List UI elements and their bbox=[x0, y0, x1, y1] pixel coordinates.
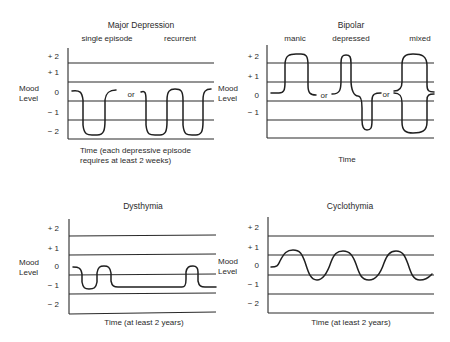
ytick-minus1: − 1 bbox=[248, 280, 260, 289]
ytick-minus1: − 1 bbox=[248, 108, 260, 117]
ylabel-level: Level bbox=[19, 268, 38, 277]
ytick-plus1: + 1 bbox=[48, 68, 60, 77]
curve-dysthymia bbox=[73, 266, 216, 289]
ytick-plus1: + 1 bbox=[248, 243, 260, 252]
ylabel-mood: Mood bbox=[218, 257, 238, 266]
x-axis bbox=[69, 312, 216, 314]
panel-title: Bipolar bbox=[338, 20, 365, 30]
curve-manic bbox=[271, 54, 316, 95]
ytick-minus1: − 1 bbox=[48, 281, 60, 290]
ytick-minus1: − 1 bbox=[48, 108, 60, 117]
subtitle-manic: manic bbox=[284, 34, 305, 43]
xlabel: Time (at least 2 years) bbox=[311, 318, 391, 327]
gridline-plus2 bbox=[69, 235, 216, 236]
ytick-minus2: − 2 bbox=[48, 300, 60, 309]
ytick-0: 0 bbox=[55, 88, 60, 97]
ytick-minus2: − 2 bbox=[248, 299, 260, 308]
subtitle-mixed: mixed bbox=[409, 34, 430, 43]
ylabel-level: Level bbox=[218, 94, 237, 103]
separator-or: or bbox=[127, 90, 134, 99]
panel-dysthymia: Dysthymia Mood Level + 2 + 1 0 − 1 − 2 T… bbox=[19, 201, 216, 327]
ytick-plus2: + 2 bbox=[48, 52, 60, 61]
ylabel-level: Level bbox=[218, 267, 237, 276]
subtitle-recurrent: recurrent bbox=[164, 34, 197, 43]
xlabel: Time (at least 2 years) bbox=[104, 318, 184, 327]
ytick-0: 0 bbox=[55, 262, 60, 271]
gridline-0 bbox=[69, 274, 216, 275]
ytick-plus1: + 1 bbox=[48, 244, 60, 253]
ytick-plus2: + 2 bbox=[248, 223, 260, 232]
ylabel-mood: Mood bbox=[218, 84, 238, 93]
subtitle-single-episode: single episode bbox=[81, 34, 133, 43]
xlabel: Time bbox=[338, 155, 356, 164]
curve-recurrent bbox=[141, 89, 211, 135]
gridline-plus1 bbox=[69, 254, 216, 255]
ytick-plus2: + 2 bbox=[48, 224, 60, 233]
ytick-0: 0 bbox=[255, 261, 260, 270]
xlabel-line1: Time (each depressive episode bbox=[80, 146, 191, 155]
subtitle-depressed: depressed bbox=[332, 34, 369, 43]
panel-bipolar: Bipolar manic depressed mixed Mood Level… bbox=[218, 20, 434, 164]
curve-mixed-upper bbox=[394, 54, 434, 92]
ytick-minus2: − 2 bbox=[48, 127, 60, 136]
separator-or-1: or bbox=[320, 91, 327, 100]
ylabel-mood: Mood bbox=[19, 258, 39, 267]
curve-mixed-lower bbox=[394, 93, 434, 133]
panel-title: Major Depression bbox=[108, 20, 175, 30]
ytick-plus1: + 1 bbox=[248, 72, 260, 81]
curve-depressed bbox=[332, 55, 381, 130]
ylabel-mood: Mood bbox=[19, 84, 39, 93]
panel-title: Dysthymia bbox=[123, 201, 163, 211]
ytick-plus2: + 2 bbox=[248, 52, 260, 61]
ytick-0: 0 bbox=[255, 91, 260, 100]
ylabel-level: Level bbox=[19, 94, 38, 103]
panel-major-depression: Major Depression single episode recurren… bbox=[19, 20, 214, 165]
gridline-minus1 bbox=[69, 293, 216, 294]
panel-cyclothymia: Cyclothymia Mood Level + 2 + 1 0 − 1 − 2… bbox=[218, 201, 434, 327]
xlabel-line2: requires at least 2 weeks) bbox=[80, 156, 171, 165]
mood-disorder-diagram: Major Depression single episode recurren… bbox=[0, 0, 450, 342]
curve-single-episode bbox=[72, 90, 116, 135]
panel-title: Cyclothymia bbox=[327, 201, 374, 211]
separator-or-2: or bbox=[382, 90, 389, 99]
